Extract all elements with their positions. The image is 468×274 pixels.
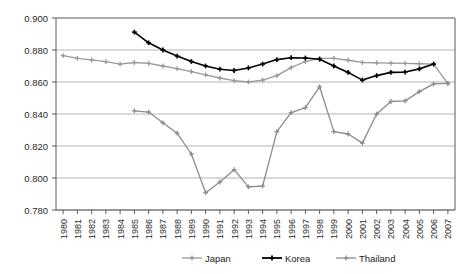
x-tick-label: 1999 <box>329 219 339 239</box>
x-tick-label: 1985 <box>130 219 140 239</box>
x-tick-label: 2007 <box>443 219 453 239</box>
x-tick-label: 2006 <box>429 219 439 239</box>
x-tick-label: 1995 <box>272 219 282 239</box>
x-tick-label: 1992 <box>230 219 240 239</box>
x-axis-ticks: 1980198119821983198419851986198719881989… <box>59 210 454 239</box>
legend-label-thailand: Thailand <box>359 253 395 264</box>
x-tick-label: 1986 <box>144 219 154 239</box>
x-tick-label: 1982 <box>87 219 97 239</box>
x-tick-label: 1983 <box>101 219 111 239</box>
x-tick-label: 2003 <box>386 219 396 239</box>
y-tick-label: 0.880 <box>24 45 48 56</box>
x-tick-label: 1981 <box>73 219 83 239</box>
x-tick-label: 1990 <box>201 219 211 239</box>
x-tick-label: 1984 <box>116 219 126 239</box>
x-tick-label: 1980 <box>59 219 69 239</box>
x-tick-label: 1998 <box>315 219 325 239</box>
x-tick-label: 2002 <box>372 219 382 239</box>
legend-label-korea: Korea <box>285 253 311 264</box>
x-tick-label: 1996 <box>287 219 297 239</box>
y-tick-label: 0.800 <box>24 173 48 184</box>
x-tick-label: 1987 <box>158 219 168 239</box>
x-tick-label: 1991 <box>215 219 225 239</box>
y-axis-ticks: 0.9000.8800.8600.8400.8200.8000.780 <box>24 13 56 216</box>
x-tick-label: 2001 <box>358 219 368 239</box>
legend-label-japan: Japan <box>205 253 231 264</box>
line-chart: 0.9000.8800.8600.8400.8200.8000.78019801… <box>0 0 468 274</box>
y-tick-label: 0.840 <box>24 109 48 120</box>
x-tick-label: 1988 <box>173 219 183 239</box>
x-tick-label: 1993 <box>244 219 254 239</box>
chart-legend: JapanKoreaThailand <box>182 253 395 264</box>
x-tick-label: 1994 <box>258 219 268 239</box>
x-tick-label: 2004 <box>401 219 411 239</box>
chart-canvas: 0.9000.8800.8600.8400.8200.8000.78019801… <box>0 0 468 274</box>
y-tick-label: 0.780 <box>24 205 48 216</box>
x-tick-label: 1989 <box>187 219 197 239</box>
y-tick-label: 0.900 <box>24 13 48 24</box>
y-tick-label: 0.820 <box>24 141 48 152</box>
x-tick-label: 2000 <box>344 219 354 239</box>
x-tick-label: 1997 <box>301 219 311 239</box>
y-tick-label: 0.860 <box>24 77 48 88</box>
x-tick-label: 2005 <box>415 219 425 239</box>
